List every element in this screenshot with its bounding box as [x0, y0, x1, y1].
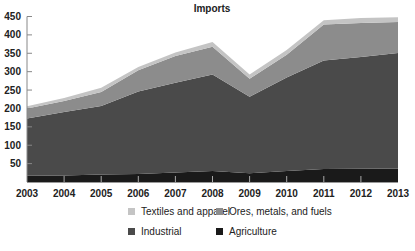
- legend-swatch-ores: [216, 208, 223, 215]
- legend-item-agriculture: Agriculture: [216, 226, 277, 237]
- y-tick-label: 150: [4, 121, 21, 132]
- chart-title: Imports: [194, 3, 231, 14]
- y-tick-label: 200: [4, 103, 21, 114]
- x-tick-label: 2011: [313, 188, 335, 199]
- y-tick-label: 250: [4, 85, 21, 96]
- plot-areas: [27, 17, 398, 182]
- legend-swatch-textiles: [128, 208, 135, 215]
- x-tick-label: 2010: [276, 188, 299, 199]
- x-tick-label: 2012: [350, 188, 373, 199]
- legend-item-ores: Ores, metals, and fuels: [216, 206, 332, 217]
- y-tick-label: 50: [10, 158, 22, 169]
- x-tick-label: 2007: [164, 188, 187, 199]
- x-tick-label: 2003: [16, 188, 39, 199]
- x-tick-label: 2006: [127, 188, 150, 199]
- y-tick-label: 100: [4, 140, 21, 151]
- legend-swatch-industrial: [128, 228, 135, 235]
- legend-label: Ores, metals, and fuels: [229, 206, 332, 217]
- x-tick-label: 2005: [90, 188, 113, 199]
- legend-label: Agriculture: [229, 226, 277, 237]
- y-tick-label: 400: [4, 29, 21, 40]
- legend-item-textiles: Textiles and apparel: [128, 206, 230, 217]
- x-tick-label: 2009: [238, 188, 261, 199]
- x-tick-label: 2013: [387, 188, 410, 199]
- y-tick-label: 300: [4, 66, 21, 77]
- x-tick-label: 2004: [53, 188, 76, 199]
- x-tick-label: 2008: [201, 188, 224, 199]
- legend-label: Industrial: [141, 226, 182, 237]
- y-tick-label: 350: [4, 48, 21, 59]
- legend-swatch-agriculture: [216, 228, 223, 235]
- legend-item-industrial: Industrial: [128, 226, 182, 237]
- y-tick-label: 450: [4, 11, 21, 22]
